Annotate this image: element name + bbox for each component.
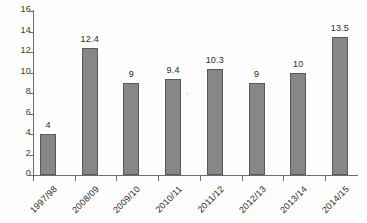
bar-value-label: 12.4 — [73, 35, 107, 44]
bar-value-label: 9 — [114, 70, 148, 79]
x-axis-category-label: 2008/09 — [64, 184, 101, 221]
x-axis-line — [33, 175, 358, 176]
x-axis-tick-mark — [200, 176, 201, 181]
x-axis-tick-mark — [325, 176, 326, 181]
y-axis-tick-label: 12 — [21, 46, 31, 55]
bar-value-label: 10 — [281, 60, 315, 69]
x-axis-category-label: 1997/98 — [22, 184, 59, 221]
bar-chart: 1614121086420 412.499.410.391013.5 1997/… — [0, 0, 367, 223]
bar — [290, 73, 306, 176]
y-axis-tick-mark — [29, 32, 33, 33]
y-axis-tick-label: 6 — [26, 108, 31, 117]
y-axis-tick-mark — [29, 11, 33, 12]
y-axis-tick-mark — [29, 155, 33, 156]
x-axis-tick-mark — [158, 176, 159, 181]
x-axis-tick-mark — [283, 176, 284, 181]
x-axis-category-label: 2011/12 — [189, 184, 226, 221]
y-axis-tick-mark — [29, 134, 33, 135]
scan-speckle — [253, 68, 254, 70]
bar — [207, 69, 223, 175]
y-axis-tick-mark — [29, 73, 33, 74]
bar-value-label: 13.5 — [323, 24, 357, 33]
y-axis-tick-label: 16 — [21, 5, 31, 14]
y-axis-tick-label: 2 — [26, 149, 31, 158]
bar — [40, 134, 56, 175]
bar — [332, 37, 348, 175]
x-axis-category-label: 2012/13 — [231, 184, 268, 221]
x-axis-category-label: 2013/14 — [272, 184, 309, 221]
y-axis-line — [33, 10, 34, 176]
bar-value-label: 10.3 — [198, 56, 232, 65]
y-axis-tick-label: 14 — [21, 26, 31, 35]
scan-speckle — [251, 66, 253, 67]
y-axis-tick-label: 8 — [26, 87, 31, 96]
x-axis-category-label: 2010/11 — [147, 184, 184, 221]
y-axis-tick-label: 0 — [26, 169, 31, 178]
y-axis-tick-mark — [29, 52, 33, 53]
bar — [165, 79, 181, 175]
bar — [249, 83, 265, 175]
x-axis-tick-mark — [116, 176, 117, 181]
bar-value-label: 9 — [240, 70, 274, 79]
x-axis-tick-mark — [242, 176, 243, 181]
x-axis-category-label: 2014/15 — [314, 184, 351, 221]
bar — [123, 83, 139, 175]
bar-value-label: 4 — [31, 121, 65, 130]
y-axis-tick-mark — [29, 93, 33, 94]
x-axis-tick-mark — [75, 176, 76, 181]
x-axis-category-label: 2009/10 — [106, 184, 143, 221]
bar — [82, 48, 98, 175]
y-axis-tick-mark — [29, 114, 33, 115]
scan-speckle — [186, 93, 188, 95]
x-axis-tick-mark — [33, 176, 34, 181]
y-axis-tick-label: 10 — [21, 67, 31, 76]
bar-value-label: 9.4 — [156, 66, 190, 75]
